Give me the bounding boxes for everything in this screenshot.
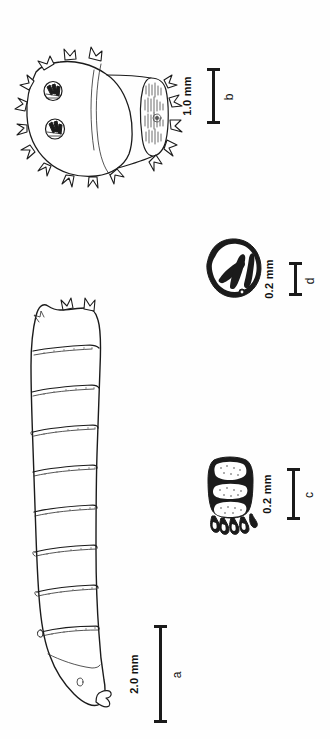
scalebar-c-stem — [292, 468, 295, 520]
scalebar-a-label: 2.0 mm — [128, 654, 140, 694]
scalebar-a-stem — [159, 625, 162, 723]
panel-letter-a: a — [170, 672, 184, 679]
scalebar-a: 2.0 mm — [152, 625, 168, 723]
panel-letter-b: b — [222, 94, 236, 101]
panel-d-drawing — [196, 232, 268, 306]
panel-c-drawing — [200, 452, 262, 538]
scalebar-d: 0.2 mm — [287, 262, 303, 296]
scalebar-b-stem — [212, 68, 215, 124]
scalebar-d-label: 0.2 mm — [263, 259, 275, 299]
scalebar-d-cap-bottom — [289, 293, 302, 296]
scalebar-a-cap-bottom — [154, 720, 167, 723]
panel-letter-c: c — [302, 492, 316, 498]
panel-b-drawing — [6, 28, 188, 194]
panel-letter-d: d — [303, 278, 317, 285]
scalebar-c-cap-bottom — [287, 517, 300, 520]
figure-plate: 1.0 mm b 0.2 mm d — [0, 0, 330, 739]
scalebar-b-label: 1.0 mm — [181, 76, 193, 116]
scalebar-b-cap-bottom — [207, 121, 220, 124]
scalebar-c-label: 0.2 mm — [261, 474, 273, 514]
scalebar-b: 1.0 mm — [205, 68, 221, 124]
panel-a-drawing — [8, 288, 138, 728]
scalebar-d-stem — [294, 262, 297, 296]
scalebar-c: 0.2 mm — [285, 468, 301, 520]
